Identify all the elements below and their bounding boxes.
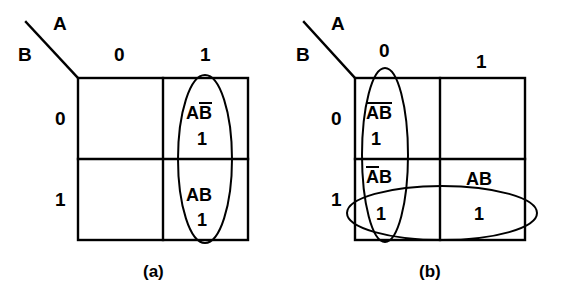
row-header-0: 0 xyxy=(331,109,342,128)
karnaugh-map-figure: A B 0 1 0 1 AB 1 AB 1 (a) A B 0 xyxy=(0,0,572,300)
term-literal-a: A xyxy=(466,169,479,189)
kmap-b-graphics xyxy=(286,0,572,300)
term-literal-b: B xyxy=(479,169,492,189)
kmap-a: A B 0 1 0 1 AB 1 AB 1 (a) xyxy=(0,0,286,300)
row-header-1: 1 xyxy=(55,190,66,209)
column-header-1: 1 xyxy=(476,52,487,71)
cell-term-r1c0: AB xyxy=(366,167,392,187)
term-literal-b-negated: B xyxy=(379,103,392,123)
row-header-1: 1 xyxy=(331,190,342,209)
term-literal-b-negated: B xyxy=(199,103,212,123)
cell-value-r0c0: 1 xyxy=(371,130,381,148)
caption-a: (a) xyxy=(143,263,164,280)
row-header-0: 0 xyxy=(55,109,66,128)
term-literal-a-negated: A xyxy=(366,167,379,187)
axis-divider-line xyxy=(26,22,78,78)
column-header-1: 1 xyxy=(200,45,211,64)
axis-divider-line xyxy=(304,22,355,78)
column-header-0: 0 xyxy=(379,41,390,60)
cell-value-r0c1: 1 xyxy=(197,130,207,148)
axis-label-b: B xyxy=(296,45,310,64)
column-header-0: 0 xyxy=(114,45,125,64)
caption-b: (b) xyxy=(419,263,441,280)
axis-label-a: A xyxy=(53,14,67,33)
cell-term-r0c1: AB xyxy=(186,103,212,123)
term-literal-b: B xyxy=(379,167,392,187)
cell-term-r0c0: AB xyxy=(366,103,392,123)
kmap-a-graphics xyxy=(0,0,286,300)
axis-label-a: A xyxy=(331,14,345,33)
term-literal-a: A xyxy=(186,185,199,205)
kmap-b: A B 0 1 0 1 AB 1 AB 1 AB 1 (b) xyxy=(286,0,572,300)
term-literal-a: A xyxy=(186,103,199,123)
term-literal-b: B xyxy=(199,185,212,205)
cell-term-r1c1: AB xyxy=(466,170,492,189)
term-literal-a-negated: A xyxy=(366,103,379,123)
cell-value-r1c1: 1 xyxy=(474,205,484,223)
cell-value-r1c0: 1 xyxy=(376,205,386,223)
axis-label-b: B xyxy=(18,45,32,64)
cell-value-r1c1: 1 xyxy=(197,211,207,229)
cell-term-r1c1: AB xyxy=(186,186,212,205)
